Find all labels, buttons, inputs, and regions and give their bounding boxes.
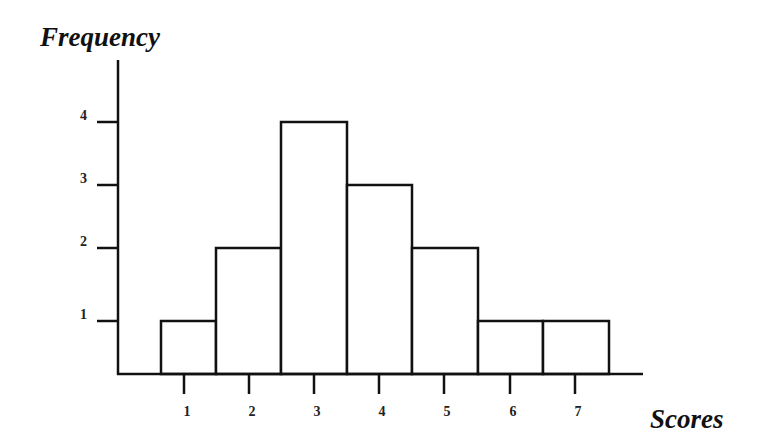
x-tick-label: 1 [184, 404, 191, 419]
histogram-bar-1 [161, 321, 216, 374]
x-tick-label: 5 [444, 404, 451, 419]
y-tick-label: 3 [80, 171, 87, 186]
x-ticks: 1234567 [184, 374, 582, 419]
y-ticks: 1234 [80, 108, 118, 322]
x-tick-label: 2 [249, 404, 256, 419]
y-tick-label: 1 [80, 307, 87, 322]
x-tick-label: 6 [510, 404, 517, 419]
histogram-bar-5 [412, 248, 478, 374]
histogram-bar-3 [281, 122, 347, 374]
x-tick-label: 4 [379, 404, 386, 419]
y-tick-label: 2 [80, 234, 87, 249]
x-tick-label: 7 [575, 404, 582, 419]
histogram-bar-2 [216, 248, 281, 374]
histogram-chart: Frequency Scores 1234 1234567 [0, 0, 761, 448]
x-tick-label: 3 [314, 404, 321, 419]
histogram-bar-6 [478, 321, 543, 374]
y-axis-title: Frequency [39, 22, 161, 52]
x-axis-title: Scores [650, 404, 724, 434]
histogram-bar-4 [347, 185, 412, 374]
histogram-bar-7 [543, 321, 609, 374]
bars [161, 122, 609, 374]
y-tick-label: 4 [80, 108, 87, 123]
